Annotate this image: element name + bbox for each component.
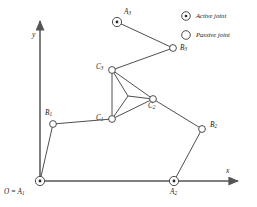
joint-label-b3-subscript: 3 bbox=[184, 46, 187, 52]
x-axis-label: x bbox=[226, 167, 229, 175]
joint-b3-passive bbox=[170, 45, 177, 52]
link-a1-b1 bbox=[40, 124, 53, 181]
axes-group bbox=[40, 21, 238, 181]
joint-b1-passive bbox=[50, 121, 57, 128]
joint-label-c1-subscript: 1 bbox=[101, 116, 104, 122]
joint-label-b2: B2 bbox=[210, 122, 217, 130]
figure-canvas: y x O = A1 A3 A2 B1 B2 B3 C1 C2 C3 Activ… bbox=[0, 0, 257, 207]
origin-label-text: O = A bbox=[4, 188, 22, 196]
y-axis-label: y bbox=[32, 31, 35, 39]
legend-label-active: Active joint bbox=[196, 13, 226, 20]
joint-label-c2-subscript: 2 bbox=[153, 104, 156, 110]
moving-platform bbox=[112, 70, 153, 119]
link-a3-b3 bbox=[117, 22, 173, 48]
joint-label-a3-subscript: 3 bbox=[128, 10, 131, 16]
joint-label-c3: C3 bbox=[96, 64, 103, 72]
link-a2-b2 bbox=[174, 129, 202, 181]
joint-label-c2: C2 bbox=[148, 103, 155, 111]
joint-a1-dot bbox=[39, 180, 42, 183]
joint-markers bbox=[35, 17, 205, 185]
passive-joint-icon bbox=[182, 31, 191, 40]
joint-label-a3: A3 bbox=[124, 9, 131, 17]
joint-c3-passive bbox=[109, 67, 116, 74]
platform-triangle bbox=[112, 70, 153, 119]
joint-label-c3-subscript: 3 bbox=[101, 65, 104, 71]
joint-label-b1: B1 bbox=[45, 110, 52, 118]
joint-label-c1: C1 bbox=[96, 115, 103, 123]
legend-label-passive: Passive joint bbox=[196, 32, 230, 39]
joint-a3-dot bbox=[116, 21, 119, 24]
legend-markers bbox=[182, 12, 191, 40]
joint-label-a2: A2 bbox=[170, 189, 177, 197]
link-b3-c3 bbox=[112, 48, 173, 70]
link-b2-c2 bbox=[153, 99, 202, 129]
origin-label-subscript: 1 bbox=[22, 190, 25, 196]
joint-a2-dot bbox=[173, 180, 176, 183]
joint-label-a2-subscript: 2 bbox=[174, 190, 177, 196]
origin-label: O = A1 bbox=[4, 189, 25, 197]
joint-label-b1-subscript: 1 bbox=[49, 111, 52, 117]
joint-label-b3: B3 bbox=[180, 45, 187, 53]
joint-b2-passive bbox=[199, 126, 206, 133]
joint-label-b2-subscript: 2 bbox=[214, 123, 217, 129]
active-joint-icon-dot bbox=[185, 15, 188, 18]
platform-spoke-1 bbox=[112, 70, 128, 96]
joint-c1-passive bbox=[109, 116, 116, 123]
linkage-links bbox=[40, 22, 202, 181]
